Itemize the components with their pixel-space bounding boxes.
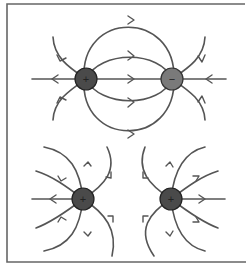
- svg-text:+: +: [80, 193, 86, 205]
- arrow-icon: [58, 176, 66, 181]
- svg-text:+: +: [83, 73, 89, 85]
- positive-charge: +: [160, 188, 182, 210]
- field-lines-diagram: + −: [0, 0, 246, 270]
- arrow-icon: [166, 162, 173, 167]
- dipole-panel: + −: [32, 16, 226, 138]
- arrow-icon: [108, 216, 113, 222]
- arrow-icon: [58, 217, 66, 222]
- arrow-icon: [128, 51, 134, 60]
- svg-text:−: −: [169, 73, 175, 85]
- arrow-icon: [128, 16, 134, 24]
- positive-charge: +: [72, 188, 94, 210]
- negative-charge: −: [161, 68, 183, 90]
- positive-charge: +: [75, 68, 97, 90]
- field-line: [84, 79, 174, 131]
- field-line: [84, 27, 174, 79]
- arrow-icon: [166, 231, 173, 236]
- svg-text:+: +: [168, 193, 174, 205]
- like-charges-panel: + +: [32, 147, 225, 256]
- arrow-icon: [84, 162, 91, 166]
- diagram-frame: [7, 4, 246, 262]
- arrow-icon: [128, 98, 134, 107]
- arrow-icon: [143, 216, 148, 222]
- arrow-icon: [84, 232, 91, 236]
